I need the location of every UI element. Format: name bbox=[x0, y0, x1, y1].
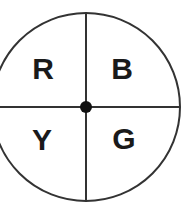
spinner-diagram: R B Y G bbox=[0, 0, 192, 207]
spinner-svg: R B Y G bbox=[0, 0, 192, 207]
spinner-center-dot bbox=[80, 101, 92, 113]
section-label-r: R bbox=[32, 52, 54, 85]
section-label-g: G bbox=[112, 122, 135, 155]
section-label-b: B bbox=[111, 52, 133, 85]
section-label-y: Y bbox=[32, 123, 52, 156]
